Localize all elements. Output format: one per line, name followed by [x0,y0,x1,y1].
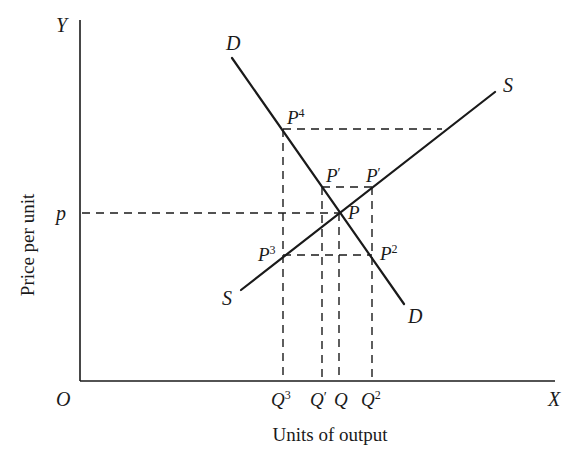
origin-label: O [56,388,70,410]
y-axis-label: Y [56,14,69,36]
price-label: p [54,202,66,225]
supply-label-top: S [503,74,513,96]
x-tick-q2: Q2 [361,388,381,410]
x-axis-title: Units of output [272,424,388,445]
supply-curve [241,92,495,290]
y-axis-title: Price per unit [17,193,38,296]
point-label-p4: P4 [286,106,305,128]
x-tick-q3: Q3 [271,388,291,410]
supply-demand-diagram: Y O X p Price per unit Units of output D… [0,0,587,465]
x-tick-q: Q [334,389,348,410]
x-tick-qprime: Q′ [310,389,327,410]
point-label-p: P [347,202,360,223]
point-label-p3: P3 [257,243,276,265]
demand-label-top: D [225,32,241,54]
point-label-p2: P2 [379,242,398,264]
demand-curve [232,58,404,304]
demand-label-bottom: D [407,305,423,327]
point-label-pprime-left: P′ [325,165,341,186]
x-axis-label: X [547,388,561,410]
supply-label-bottom: S [222,287,232,309]
